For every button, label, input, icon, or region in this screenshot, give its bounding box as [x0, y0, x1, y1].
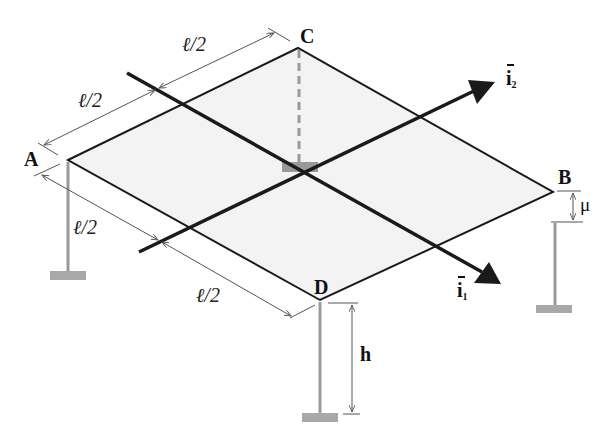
label-point-b: B	[558, 167, 571, 187]
label-dim-bottom-left: ℓ/2	[73, 217, 97, 237]
label-point-a: A	[24, 149, 38, 169]
label-dim-bottom-right: ℓ/2	[196, 285, 220, 305]
arrowhead-i1-icon	[474, 262, 501, 284]
plate-diagram: A C B D ℓ/2 ℓ/2 ℓ/2 ℓ/2 h μ i2 i1	[0, 0, 615, 444]
overbar	[458, 276, 465, 278]
label-dim-top-right: ℓ/2	[182, 34, 206, 54]
support-a	[50, 271, 86, 280]
label-point-c: C	[300, 26, 314, 46]
ext-line	[38, 143, 58, 155]
label-axis-i1: i1	[457, 280, 468, 302]
overbar	[507, 64, 514, 66]
label-dim-top-left: ℓ/2	[78, 90, 102, 110]
label-dim-mu: μ	[580, 195, 590, 214]
ext-line	[290, 305, 315, 318]
label-axis-i2: i2	[506, 68, 517, 90]
support-d	[302, 413, 338, 422]
label-point-d: D	[314, 277, 328, 297]
support-b	[536, 305, 572, 313]
label-dim-h: h	[360, 344, 371, 364]
